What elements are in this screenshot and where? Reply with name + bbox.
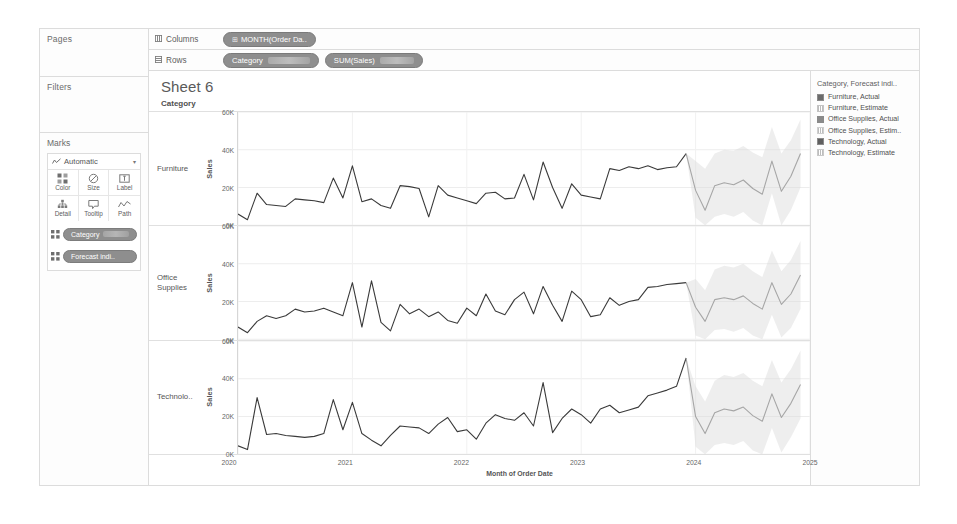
y-axis-ticks-0: 0K20K40K60K	[215, 112, 238, 225]
color-legend: Category, Forecast indi.. Furniture, Act…	[811, 71, 919, 485]
viz-and-legend: Sheet 6 Category Furniture Sales 0K20K40…	[149, 71, 919, 485]
pages-shelf[interactable]: Pages	[40, 29, 148, 77]
legend-item[interactable]: Office Supplies, Actual	[817, 115, 914, 123]
tooltip-icon	[88, 199, 99, 210]
marks-path-label: Path	[118, 211, 131, 217]
marks-detail-button[interactable]: Detail	[48, 196, 79, 221]
rows-pill-sum-sales[interactable]: SUM(Sales)	[325, 53, 423, 68]
chart-panels: Furniture Sales 0K20K40K60K Office Suppl…	[149, 112, 810, 455]
size-icon	[88, 173, 99, 184]
y-axis-tick-label: 20K	[222, 413, 234, 420]
legend-item-label: Furniture, Actual	[828, 93, 880, 101]
pages-shelf-label: Pages	[47, 34, 141, 44]
y-axis-tick-label: 40K	[222, 146, 234, 153]
filters-shelf[interactable]: Filters	[40, 77, 148, 133]
page-title: Sheet 6	[149, 71, 810, 99]
label-icon	[119, 173, 130, 184]
tableau-worksheet-window: Pages Filters Marks Automatic ▾	[39, 28, 920, 486]
pill-blur-overlay	[380, 57, 414, 64]
legend-items: Furniture, Actual Furniture, Estimate Of…	[817, 93, 914, 157]
detail-icon	[51, 247, 60, 265]
legend-item-label: Office Supplies, Actual	[828, 115, 899, 123]
marks-pill-category[interactable]: Category	[63, 228, 137, 241]
marks-pill-forecast-indicator[interactable]: Forecast indi..	[63, 250, 137, 263]
y-axis-tick-label: 60K	[222, 223, 234, 230]
line-mark-icon	[52, 158, 61, 165]
legend-swatch-icon	[817, 127, 824, 134]
legend-title: Category, Forecast indi..	[817, 79, 914, 88]
x-axis-tick-label: 2025	[802, 459, 817, 466]
marks-tooltip-label: Tooltip	[84, 211, 102, 217]
columns-shelf[interactable]: Columns ⊞ MONTH(Order Da..	[149, 29, 919, 50]
legend-item[interactable]: Furniture, Actual	[817, 93, 914, 101]
marks-card: Automatic ▾	[47, 153, 141, 271]
plot-area-office-supplies[interactable]	[238, 226, 810, 339]
legend-item[interactable]: Technology, Actual	[817, 138, 914, 146]
rows-pill-category[interactable]: Category	[223, 53, 319, 68]
row-label-office-supplies: Office Supplies	[149, 226, 203, 339]
marks-shelf-label: Marks	[47, 138, 141, 148]
x-axis-tick-label: 2020	[221, 459, 236, 466]
marks-pill-list: Category	[48, 221, 140, 270]
legend-swatch-icon	[817, 149, 824, 156]
legend-item-label: Office Supplies, Estim..	[828, 127, 901, 135]
columns-pill-label: MONTH(Order Da..	[241, 33, 307, 46]
y-axis-tick-label: 20K	[222, 184, 234, 191]
marks-label-label: Label	[117, 185, 133, 191]
viz-container: Sheet 6 Category Furniture Sales 0K20K40…	[149, 71, 811, 485]
grid-icon	[155, 35, 162, 44]
marks-pill-category-row[interactable]: Category	[51, 225, 137, 243]
x-axis-tick-label: 2021	[338, 459, 353, 466]
marks-size-button[interactable]: Size	[79, 170, 110, 196]
marks-path-button[interactable]: Path	[109, 196, 140, 221]
x-axis-ticks: Month of Order Date 20202021202220232024…	[229, 455, 810, 485]
rows-pill-category-label: Category	[232, 54, 263, 67]
columns-pill-month-order-date[interactable]: ⊞ MONTH(Order Da..	[223, 32, 316, 47]
legend-swatch-icon	[817, 116, 824, 123]
legend-swatch-icon	[817, 138, 824, 145]
legend-swatch-icon	[817, 94, 824, 101]
marks-tooltip-button[interactable]: Tooltip	[79, 196, 110, 221]
rows-pill-sum-sales-label: SUM(Sales)	[334, 54, 375, 67]
expand-plus-icon[interactable]: ⊞	[232, 33, 238, 46]
color-icon	[57, 173, 68, 184]
marks-pill-forecast-row[interactable]: Forecast indi..	[51, 247, 137, 265]
y-axis-title: Sales	[203, 112, 215, 225]
marks-label-button[interactable]: Label	[109, 170, 140, 196]
y-axis-tick-label: 60K	[222, 337, 234, 344]
marks-color-label: Color	[55, 185, 70, 191]
x-axis-title: Month of Order Date	[486, 470, 553, 477]
chevron-down-icon[interactable]: ▾	[133, 159, 136, 165]
y-axis-ticks-1: 0K20K40K60K	[215, 226, 238, 339]
filters-shelf-label: Filters	[47, 82, 141, 92]
mark-type-label: Automatic	[64, 157, 98, 166]
columns-shelf-label-group: Columns	[155, 35, 223, 44]
plot-area-technology[interactable]	[238, 341, 810, 454]
row-label-furniture: Furniture	[149, 112, 203, 225]
mark-type-dropdown[interactable]: Automatic ▾	[48, 154, 140, 170]
left-shelf-column: Pages Filters Marks Automatic ▾	[40, 29, 149, 485]
detail-icon	[51, 225, 60, 243]
marks-color-button[interactable]: Color	[48, 170, 79, 196]
y-axis-tick-label: 60K	[222, 109, 234, 116]
path-icon	[118, 199, 131, 210]
legend-item[interactable]: Furniture, Estimate	[817, 104, 914, 112]
legend-item[interactable]: Office Supplies, Estim..	[817, 127, 914, 135]
rows-grid-icon	[155, 56, 162, 65]
marks-detail-label: Detail	[55, 211, 71, 217]
y-axis-tick-label: 40K	[222, 261, 234, 268]
detail-icon	[57, 199, 68, 210]
y-axis-ticks-2: 0K20K40K60K	[215, 341, 238, 454]
legend-item-label: Technology, Actual	[828, 138, 887, 146]
x-axis-tick-label: 2023	[570, 459, 585, 466]
legend-item[interactable]: Technology, Estimate	[817, 149, 914, 157]
rows-shelf[interactable]: Rows Category SUM(Sales)	[149, 50, 919, 71]
chart-panel: Technolo.. Sales 0K20K40K60K	[149, 341, 810, 455]
chart-panel: Furniture Sales 0K20K40K60K	[149, 112, 810, 226]
marks-button-grid: Color Size	[48, 170, 140, 221]
legend-swatch-icon	[817, 105, 824, 112]
y-axis-title: Sales	[203, 226, 215, 339]
pill-blur-overlay	[103, 231, 129, 237]
plot-area-furniture[interactable]	[238, 112, 810, 225]
chart-panel: Office Supplies Sales 0K20K40K60K	[149, 226, 810, 340]
